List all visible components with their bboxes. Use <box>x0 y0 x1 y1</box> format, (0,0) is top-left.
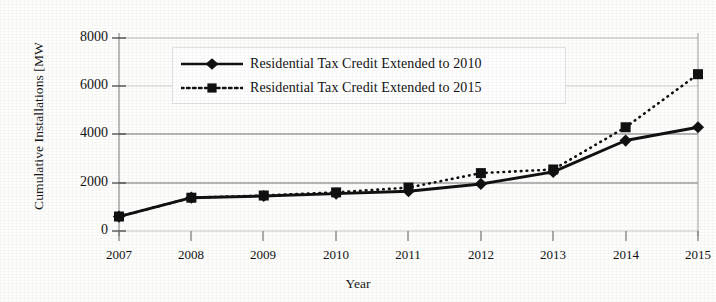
x-tick-label: 2013 <box>523 247 583 263</box>
legend-item-residential-tax-credit-2015: Residential Tax Credit Extended to 2015 <box>181 76 482 100</box>
legend-label: Residential Tax Credit Extended to 2010 <box>250 56 482 72</box>
legend-solid-diamond-icon <box>181 57 243 71</box>
series-residential-tax-credit-2010 <box>113 121 704 222</box>
x-tick-label: 2007 <box>89 247 149 263</box>
chart-figure: 8000 6000 4000 2000 0 2007 2008 2009 201… <box>0 0 716 302</box>
y-tick-label: 6000 <box>42 77 108 93</box>
x-tick-label: 2008 <box>161 247 221 263</box>
x-axis-title: Year <box>0 276 716 292</box>
y-tick-label: 8000 <box>42 29 108 45</box>
chart-legend: Residential Tax Credit Extended to 2010 … <box>172 47 566 104</box>
y-tick-label: 4000 <box>42 125 108 141</box>
x-tick-label: 2015 <box>668 247 716 263</box>
x-tick-label: 2011 <box>378 247 438 263</box>
x-tick-label: 2010 <box>306 247 366 263</box>
y-axis-title: Cumulative Installations [MW <box>31 8 47 244</box>
legend-item-residential-tax-credit-2010: Residential Tax Credit Extended to 2010 <box>181 52 482 76</box>
x-tick-label: 2009 <box>233 247 293 263</box>
y-tick-label: 2000 <box>42 174 108 190</box>
x-tick-label: 2012 <box>451 247 511 263</box>
x-tick-marks <box>119 231 698 241</box>
legend-dotted-square-icon <box>181 81 243 95</box>
legend-label: Residential Tax Credit Extended to 2015 <box>250 80 482 96</box>
y-tick-label: 0 <box>42 222 108 238</box>
x-tick-label: 2014 <box>596 247 656 263</box>
